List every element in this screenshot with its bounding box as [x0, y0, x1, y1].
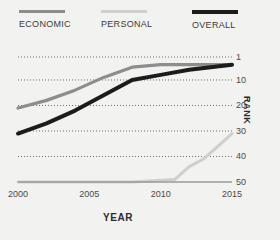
x-tick-label: 2005 [79, 190, 99, 199]
y-tick-label: 50 [236, 178, 246, 187]
legend-label-economic: ECONOMIC [19, 19, 71, 29]
series-line-personal [18, 134, 232, 182]
y-tick-label: 10 [236, 76, 246, 85]
x-axis-title: YEAR [0, 212, 236, 223]
x-tick-label: 2015 [222, 190, 242, 199]
y-tick-label: 1 [236, 53, 241, 62]
legend-swatch-overall [192, 10, 238, 14]
y-tick-label: 40 [236, 152, 246, 161]
legend-item-economic[interactable]: ECONOMIC [19, 10, 71, 29]
series-lines [18, 65, 232, 182]
rank-trend-chart: ECONOMIC PERSONAL OVERALL 11020304050 20… [0, 0, 280, 240]
x-axis-tick-labels: 2000200520102015 [0, 190, 280, 206]
legend-swatch-personal [101, 10, 147, 13]
chart-legend: ECONOMIC PERSONAL OVERALL [0, 0, 280, 42]
y-axis-title: RANK [242, 96, 252, 124]
legend-swatch-economic [19, 10, 65, 13]
x-tick-label: 2010 [151, 190, 171, 199]
series-line-economic [18, 65, 232, 108]
legend-item-personal[interactable]: PERSONAL [101, 10, 152, 29]
gridlines [18, 57, 232, 156]
y-tick-label: 30 [236, 127, 246, 136]
x-tick-label: 2000 [8, 190, 28, 199]
legend-label-overall: OVERALL [192, 20, 238, 30]
legend-item-overall[interactable]: OVERALL [192, 10, 238, 30]
legend-label-personal: PERSONAL [101, 19, 152, 29]
